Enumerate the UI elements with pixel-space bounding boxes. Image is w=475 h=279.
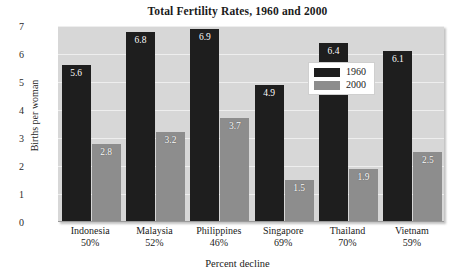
legend-swatch-icon-2000: [314, 81, 340, 90]
bar-2000: 1.9: [349, 169, 378, 222]
bar-2000: 3.7: [220, 118, 249, 222]
y-tick-label: 3: [8, 133, 24, 144]
legend-swatch-icon-1960: [314, 68, 340, 77]
bar-value-label: 1.9: [349, 172, 378, 182]
bar-2000: 1.5: [285, 180, 314, 222]
bar-2000: 2.5: [413, 152, 442, 222]
x-category-percent: 59%: [380, 237, 444, 249]
bar-group: 6.41.9: [319, 26, 378, 222]
bar-1960: 6.8: [126, 32, 155, 222]
bar-group: 5.62.8: [62, 26, 121, 222]
bar-1960: 4.9: [255, 85, 284, 222]
bar-2000: 3.2: [156, 132, 185, 222]
x-category-percent: 52%: [122, 237, 186, 249]
y-tick-label: 4: [8, 105, 24, 116]
y-axis-title: Births per woman: [29, 46, 40, 186]
axis-baseline: [58, 221, 444, 222]
bar-value-label: 6.8: [126, 35, 155, 45]
bar-value-label: 6.4: [319, 46, 348, 56]
legend-item-2000: 2000: [314, 80, 366, 90]
x-category-name: Vietnam: [380, 225, 444, 237]
plot-area: 5.62.86.83.26.93.74.91.56.41.96.12.5 196…: [58, 26, 444, 222]
plot-inner: 5.62.86.83.26.93.74.91.56.41.96.12.5: [58, 26, 444, 222]
y-tick-label: 2: [8, 161, 24, 172]
y-tick-label: 7: [8, 21, 24, 32]
bar-value-label: 3.2: [156, 135, 185, 145]
bar-value-label: 6.9: [190, 32, 219, 42]
legend-label-1960: 1960: [346, 67, 366, 77]
bar-group: 6.93.7: [190, 26, 249, 222]
legend-label-2000: 2000: [346, 80, 366, 90]
x-category-name: Thailand: [315, 225, 379, 237]
x-axis-group-label: Vietnam59%: [380, 225, 444, 249]
bar-1960: 5.6: [62, 65, 91, 222]
bar-group: 4.91.5: [255, 26, 314, 222]
x-category-percent: 46%: [187, 237, 251, 249]
bar-value-label: 4.9: [255, 88, 284, 98]
bar-group: 6.12.5: [383, 26, 442, 222]
bar-value-label: 3.7: [220, 121, 249, 131]
x-category-name: Malaysia: [122, 225, 186, 237]
x-category-name: Philippines: [187, 225, 251, 237]
bar-value-label: 2.5: [413, 155, 442, 165]
x-axis-group-label: Singapore69%: [251, 225, 315, 249]
y-tick-label: 0: [8, 217, 24, 228]
chart-figure: Total Fertility Rates, 1960 and 2000 765…: [0, 0, 475, 279]
chart-legend: 1960 2000: [308, 62, 375, 95]
x-category-percent: 69%: [251, 237, 315, 249]
x-axis-labels: Indonesia50%Malaysia52%Philippines46%Sin…: [58, 225, 444, 259]
x-axis-group-label: Indonesia50%: [58, 225, 122, 249]
x-category-name: Indonesia: [58, 225, 122, 237]
bar-value-label: 5.6: [62, 68, 91, 78]
x-category-percent: 70%: [315, 237, 379, 249]
x-category-percent: 50%: [58, 237, 122, 249]
x-category-name: Singapore: [251, 225, 315, 237]
bar-1960: 6.1: [383, 51, 412, 222]
x-axis-group-label: Philippines46%: [187, 225, 251, 249]
y-tick-label: 5: [8, 77, 24, 88]
legend-item-1960: 1960: [314, 67, 366, 77]
bar-2000: 2.8: [92, 144, 121, 222]
x-axis-title: Percent decline: [0, 258, 475, 269]
bar-value-label: 6.1: [383, 54, 412, 64]
y-tick-label: 1: [8, 189, 24, 200]
bar-value-label: 1.5: [285, 183, 314, 193]
bar-group: 6.83.2: [126, 26, 185, 222]
bar-value-label: 2.8: [92, 147, 121, 157]
x-axis-group-label: Malaysia52%: [122, 225, 186, 249]
bar-1960: 6.9: [190, 29, 219, 222]
y-tick-label: 6: [8, 49, 24, 60]
x-axis-group-label: Thailand70%: [315, 225, 379, 249]
